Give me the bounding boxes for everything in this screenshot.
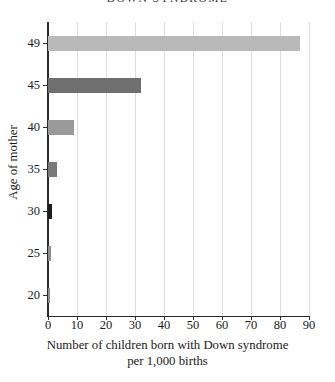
gridline <box>309 22 310 316</box>
x-axis-title: Number of children born with Down syndro… <box>0 337 335 369</box>
x-tick-label: 60 <box>207 318 237 333</box>
x-axis-title-line2: per 1,000 births <box>0 353 335 369</box>
bar <box>48 120 74 135</box>
x-axis-line <box>47 316 310 317</box>
y-tick-label: 25 <box>14 246 40 260</box>
x-tick-label: 30 <box>120 318 150 333</box>
x-tick-label: 10 <box>62 318 92 333</box>
gridline <box>106 22 107 316</box>
x-tick-label: 80 <box>265 318 295 333</box>
x-tick-label: 70 <box>236 318 266 333</box>
x-tick-label: 50 <box>178 318 208 333</box>
bar <box>48 288 50 303</box>
gridline <box>222 22 223 316</box>
plot-area <box>48 22 309 316</box>
x-axis-title-line1: Number of children born with Down syndro… <box>47 338 289 352</box>
x-tick-label: 0 <box>33 318 63 333</box>
y-tick-label: 20 <box>14 288 40 302</box>
gridline <box>135 22 136 316</box>
chart-figure: DOWN SYNDROME 0102030405060708090 494540… <box>0 0 335 382</box>
bar <box>48 246 51 261</box>
gridline <box>193 22 194 316</box>
y-axis-title: Age of mother <box>6 88 21 238</box>
x-tick-label: 90 <box>294 318 324 333</box>
chart-title: DOWN SYNDROME <box>0 0 335 2</box>
y-tick-label: 49 <box>14 36 40 50</box>
x-tick-label: 20 <box>91 318 121 333</box>
gridline <box>164 22 165 316</box>
gridline <box>280 22 281 316</box>
bar <box>48 78 141 93</box>
bar <box>48 162 57 177</box>
gridline <box>77 22 78 316</box>
x-tick-label: 40 <box>149 318 179 333</box>
gridline <box>251 22 252 316</box>
bar <box>48 36 300 51</box>
bar <box>48 204 52 219</box>
